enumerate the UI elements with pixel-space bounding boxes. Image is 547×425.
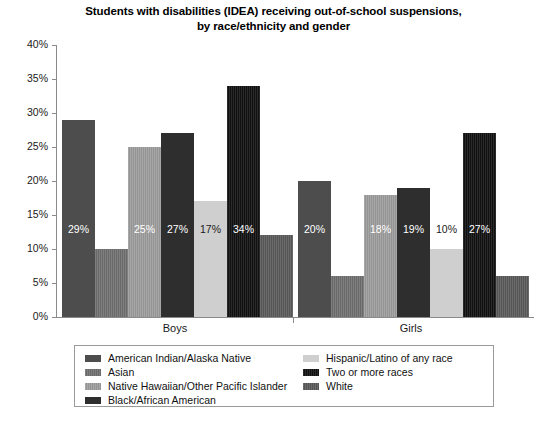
legend-item[interactable]: American Indian/Alaska Native <box>85 352 287 365</box>
legend-column-right: Hispanic/Latino of any raceTwo or more r… <box>303 352 453 394</box>
y-axis-tick-label: 40% <box>27 38 48 50</box>
y-axis-tick: 20% <box>0 181 56 182</box>
legend-swatch <box>85 383 101 390</box>
x-axis-mid-tick <box>293 318 294 323</box>
y-axis-tick: 5% <box>0 283 56 284</box>
legend-swatch <box>85 355 101 362</box>
x-axis-group-label: Girls <box>351 322 471 334</box>
bar[interactable]: 6% <box>331 276 364 317</box>
legend-swatch <box>85 369 101 376</box>
y-axis-tick: 35% <box>0 79 56 80</box>
legend-swatch <box>85 397 101 404</box>
bar[interactable]: 25% <box>128 147 161 317</box>
bar-value-label: 34% <box>227 223 260 235</box>
bar-value-label: 18% <box>364 223 397 235</box>
bar-value-label: 17% <box>194 223 227 235</box>
bar[interactable]: 29% <box>62 120 95 317</box>
chart-legend: American Indian/Alaska NativeAsianNative… <box>74 345 494 407</box>
bar[interactable]: 19% <box>397 188 430 317</box>
legend-swatch <box>303 355 319 362</box>
legend-column-left: American Indian/Alaska NativeAsianNative… <box>85 352 287 408</box>
bar-value-label: 27% <box>463 223 496 235</box>
legend-label: Asian <box>108 366 134 379</box>
bar[interactable]: 12% <box>260 235 293 317</box>
y-axis-tick: 0% <box>0 317 56 318</box>
legend-label: Hispanic/Latino of any race <box>326 352 453 365</box>
legend-swatch <box>303 369 319 376</box>
bar[interactable]: 20% <box>298 181 331 317</box>
chart-figure: Students with disabilities (IDEA) receiv… <box>0 0 547 425</box>
bar-value-label: 25% <box>128 223 161 235</box>
legend-swatch <box>303 383 319 390</box>
legend-label: Two or more races <box>326 366 413 379</box>
legend-item[interactable]: Hispanic/Latino of any race <box>303 352 453 365</box>
bar[interactable]: 27% <box>463 133 496 317</box>
legend-item[interactable]: Native Hawaiian/Other Pacific Islander <box>85 380 287 393</box>
bar-value-label: 6% <box>496 223 529 235</box>
bar[interactable]: 6% <box>496 276 529 317</box>
x-axis-group-label: Boys <box>115 322 235 334</box>
bar-value-label: 6% <box>331 223 364 235</box>
y-axis-tick-label: 15% <box>27 208 48 220</box>
bar[interactable]: 17% <box>194 201 227 317</box>
y-axis-tick: 25% <box>0 147 56 148</box>
y-axis-tick-label: 0% <box>33 310 48 322</box>
y-axis-tick-label: 10% <box>27 242 48 254</box>
bar-value-label: 19% <box>397 223 430 235</box>
bar-value-label: 29% <box>62 223 95 235</box>
bar-value-label: 20% <box>298 223 331 235</box>
x-axis-line <box>56 317 534 318</box>
y-axis-tick-label: 25% <box>27 140 48 152</box>
bar-value-label: 12% <box>260 223 293 235</box>
y-axis-tick: 15% <box>0 215 56 216</box>
legend-item[interactable]: Black/African American <box>85 394 287 407</box>
bar-value-label: 10% <box>430 223 463 235</box>
bar[interactable]: 10% <box>430 249 463 317</box>
legend-item[interactable]: Asian <box>85 366 287 379</box>
y-axis-tick-label: 30% <box>27 106 48 118</box>
legend-label: Black/African American <box>108 394 216 407</box>
chart-title-line-1: Students with disabilities (IDEA) receiv… <box>0 4 547 19</box>
bar-value-label: 10% <box>95 223 128 235</box>
chart-title: Students with disabilities (IDEA) receiv… <box>0 4 547 34</box>
legend-label: American Indian/Alaska Native <box>108 352 251 365</box>
legend-label: Native Hawaiian/Other Pacific Islander <box>108 380 287 393</box>
y-axis-tick-label: 35% <box>27 72 48 84</box>
y-axis-tick-mark <box>52 317 56 318</box>
y-axis-tick-label: 20% <box>27 174 48 186</box>
bar[interactable]: 18% <box>364 195 397 317</box>
legend-item[interactable]: White <box>303 380 453 393</box>
bar[interactable]: 34% <box>227 86 260 317</box>
legend-item[interactable]: Two or more races <box>303 366 453 379</box>
chart-title-line-2: by race/ethnicity and gender <box>0 19 547 34</box>
y-axis-tick-label: 5% <box>33 276 48 288</box>
legend-label: White <box>326 380 353 393</box>
y-axis-tick: 30% <box>0 113 56 114</box>
bar[interactable]: 10% <box>95 249 128 317</box>
y-axis-tick: 10% <box>0 249 56 250</box>
bar-value-label: 27% <box>161 223 194 235</box>
plot-area: 29%10%25%27%17%34%12%20%6%18%19%10%27%6% <box>56 45 532 317</box>
y-axis-tick: 40% <box>0 45 56 46</box>
bar[interactable]: 27% <box>161 133 194 317</box>
